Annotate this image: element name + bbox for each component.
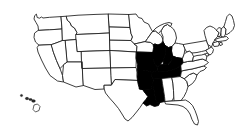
state-kansas[interactable] [110,51,136,69]
state-wyoming[interactable] [76,33,110,52]
us-map-svg [0,0,239,140]
state-arizona[interactable] [63,62,84,87]
us-map-figure: United States map with highlighted regio… [0,0,239,140]
hawaii-island-big-island [33,104,40,112]
state-arkansas[interactable] [137,70,154,90]
state-rhode-island[interactable] [220,42,223,46]
state-south-dakota[interactable] [110,27,133,41]
hawaii-island-oahu [25,97,28,99]
hawaii-island-maui [32,100,36,103]
hawaii-island-kauai [20,94,22,96]
state-north-dakota[interactable] [109,14,131,28]
state-connecticut[interactable] [213,42,220,47]
state-colorado[interactable] [82,51,112,69]
